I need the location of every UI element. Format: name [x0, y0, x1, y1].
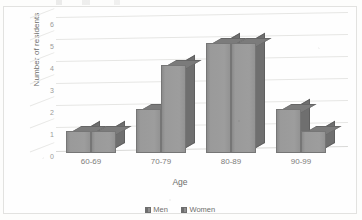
- chart-screenshot: Number of residents 6 5 4 3 2 1 0: [0, 0, 362, 220]
- y-tick-1: 1: [38, 131, 54, 139]
- x-label-80-89: 80-89: [201, 157, 261, 167]
- gridline-6: [56, 12, 348, 18]
- bar-women-80-89[interactable]: [231, 43, 256, 153]
- legend-item-men[interactable]: Men: [145, 205, 168, 214]
- y-tick-2: 2: [38, 109, 54, 117]
- bar-men-70-79[interactable]: [136, 109, 161, 153]
- legend-label-men: Men: [153, 205, 168, 214]
- chart-legend: Men Women: [4, 205, 356, 214]
- bar-group-80-89: [206, 21, 268, 153]
- legend-swatch-men-icon: [145, 207, 151, 213]
- y-tick-3: 3: [38, 87, 54, 95]
- chart-frame[interactable]: Number of residents 6 5 4 3 2 1 0: [3, 6, 357, 214]
- y-tick-6: 6: [38, 21, 54, 29]
- x-label-90-99: 90-99: [271, 157, 331, 167]
- bar-series-container: [56, 21, 348, 153]
- legend-item-women[interactable]: Women: [181, 205, 215, 214]
- bar-men-80-89[interactable]: [206, 43, 231, 153]
- legend-label-women: Women: [189, 205, 215, 214]
- y-tick-4: 4: [38, 65, 54, 73]
- bar-group-70-79: [136, 21, 198, 153]
- bar-women-70-79[interactable]: [161, 65, 186, 153]
- bar-group-90-99: [276, 21, 338, 153]
- x-axis-labels: 60-69 70-79 80-89 90-99: [56, 157, 356, 169]
- cropped-content-sliver: [56, 0, 176, 5]
- bar-women-60-69[interactable]: [91, 131, 116, 153]
- x-label-70-79: 70-79: [131, 157, 191, 167]
- legend-swatch-women-icon: [181, 207, 187, 213]
- bar-men-60-69[interactable]: [66, 131, 91, 153]
- y-tick-0: 0: [38, 153, 54, 161]
- y-tick-5: 5: [38, 43, 54, 51]
- bar-women-90-99[interactable]: [301, 131, 326, 153]
- x-label-60-69: 60-69: [61, 157, 121, 167]
- bar-group-60-69: [66, 21, 128, 153]
- y-axis-ticks: 6 5 4 3 2 1 0: [38, 21, 54, 161]
- bar-men-90-99[interactable]: [276, 109, 301, 153]
- x-axis-title: Age: [4, 177, 356, 187]
